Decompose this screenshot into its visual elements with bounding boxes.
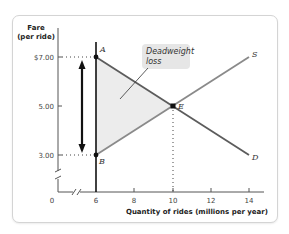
y-tick-7: $7.00 (34, 54, 54, 62)
y-axis-break-icon (55, 169, 61, 179)
point-e (171, 104, 176, 109)
x-tick-8: 8 (132, 197, 136, 205)
deadweight-loss-area (96, 57, 173, 155)
x-axis-break-icon (72, 189, 81, 195)
y-tick-3: 3.00 (38, 152, 54, 160)
deadweight-loss-chart: Deadweight loss A B E S D Fare (per ride… (0, 0, 289, 234)
y-axis-title-2: (per ride) (17, 33, 55, 41)
label-d: D (251, 153, 259, 162)
double-arrow-icon (79, 60, 86, 153)
point-b (94, 153, 99, 158)
x-tick-14: 14 (245, 197, 254, 205)
x-tick-10: 10 (169, 197, 178, 205)
callout-text-2: loss (146, 57, 161, 66)
label-e: E (177, 102, 184, 111)
x-tick-12: 12 (207, 197, 216, 205)
label-a: A (99, 45, 106, 54)
callout-text-1: Deadweight (146, 47, 195, 56)
y-axis-title-1: Fare (27, 24, 45, 32)
y-tick-5: 5.00 (38, 103, 54, 111)
point-a (94, 55, 99, 60)
label-b: B (98, 157, 105, 166)
x-tick-6: 6 (94, 197, 99, 205)
x-tick-0: 0 (50, 197, 54, 205)
label-s: S (252, 50, 258, 59)
x-axis-title: Quantity of rides (millions per year) (126, 208, 268, 216)
